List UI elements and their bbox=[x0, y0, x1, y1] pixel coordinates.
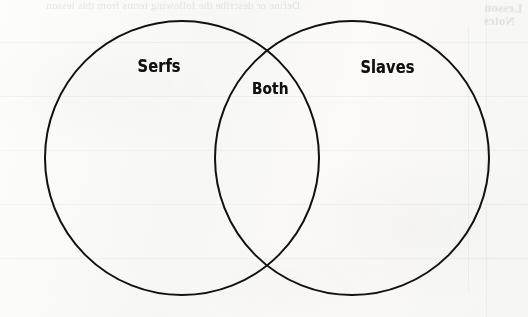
venn-label-left: Serfs bbox=[138, 56, 181, 76]
venn-circle-left bbox=[45, 21, 319, 295]
venn-label-right: Slaves bbox=[360, 57, 414, 77]
venn-circle-right bbox=[215, 21, 489, 295]
worksheet-page: Define or describe the following terms f… bbox=[0, 0, 528, 317]
venn-label-overlap: Both bbox=[252, 79, 289, 98]
venn-diagram bbox=[0, 0, 528, 317]
